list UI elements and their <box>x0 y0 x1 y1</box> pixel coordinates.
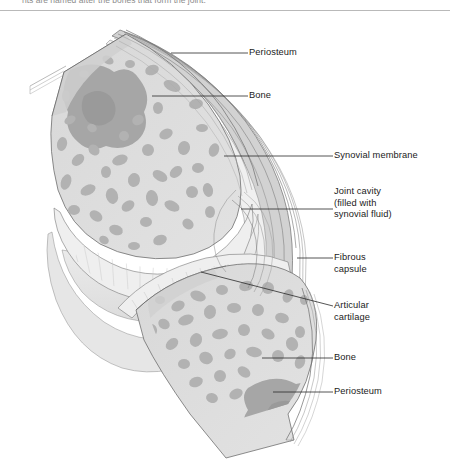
upper-bone-epiphysis <box>51 34 241 259</box>
label-synovial-membrane: Synovial membrane <box>334 150 418 162</box>
lower-bone-epiphysis <box>136 264 331 459</box>
label-bone-top: Bone <box>249 90 271 102</box>
label-articular-cartilage: Articular cartilage <box>334 300 370 323</box>
label-joint-cavity: Joint cavity (filled with synovial fluid… <box>334 186 392 221</box>
joint-illustration <box>0 0 450 460</box>
label-bone-bottom: Bone <box>334 352 356 364</box>
label-fibrous-capsule: Fibrous capsule <box>334 252 367 275</box>
label-periosteum-bottom: Periosteum <box>334 386 382 398</box>
label-periosteum-top: Periosteum <box>249 47 297 59</box>
figure-root: nts are named after the bones that form … <box>0 0 450 460</box>
